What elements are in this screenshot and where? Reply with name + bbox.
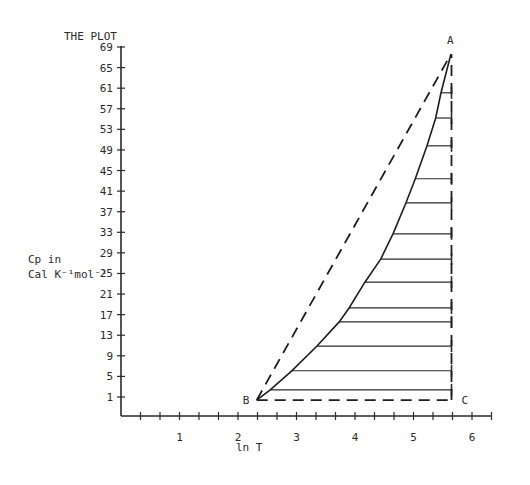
x-tick-label: 3 (293, 431, 300, 444)
hatch-lines (270, 87, 451, 396)
y-tick-label: 25 (100, 267, 113, 280)
x-tick-label: 4 (352, 431, 359, 444)
point-label-c: C (462, 394, 469, 407)
y-axis: 159131721252933374145495357616569 (100, 41, 125, 416)
x-tick-label: 2 (235, 431, 242, 444)
point-label-b: B (243, 394, 250, 407)
y-tick-label: 57 (100, 103, 113, 116)
y-tick-label: 21 (100, 288, 113, 301)
y-tick-label: 61 (100, 82, 113, 95)
y-axis-label-line1: Cp in (28, 253, 61, 266)
y-tick-label: 53 (100, 123, 113, 136)
y-tick-label: 33 (100, 226, 113, 239)
point-labels: ABC (243, 34, 468, 407)
y-tick-label: 65 (100, 62, 113, 75)
y-tick-label: 49 (100, 144, 113, 157)
y-tick-label: 5 (106, 370, 113, 383)
series-b-a-chord (257, 54, 451, 400)
y-tick-label: 41 (100, 185, 113, 198)
y-tick-label: 13 (100, 329, 113, 342)
point-label-a: A (447, 34, 454, 47)
x-tick-label: 5 (410, 431, 417, 444)
y-tick-label: 45 (100, 165, 113, 178)
y-tick-label: 9 (106, 350, 113, 363)
x-tick-label: 1 (176, 431, 183, 444)
plot-series (257, 54, 452, 400)
x-axis: 123456 (121, 412, 492, 444)
x-tick-label: 6 (469, 431, 476, 444)
y-tick-label: 69 (100, 41, 113, 54)
y-tick-label: 37 (100, 206, 113, 219)
y-tick-label: 1 (106, 391, 113, 404)
y-tick-label: 17 (100, 309, 113, 322)
y-tick-label: 29 (100, 247, 113, 260)
y-axis-label-line2: Cal K⁻¹mol⁻¹ (28, 268, 107, 281)
chart-figure: THE PLOT Cp in Cal K⁻¹mol⁻¹ ln T 1591317… (0, 0, 530, 485)
